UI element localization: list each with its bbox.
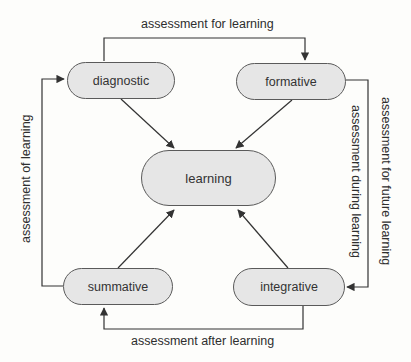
- node-integrative-label: integrative: [260, 280, 318, 294]
- edge-assessment-of-learning: [42, 79, 64, 286]
- label-assessment-for-learning: assessment for learning: [141, 18, 274, 31]
- edge-diagnostic-to-learning: [121, 99, 174, 148]
- assessment-cycle-diagram: diagnostic formative learning summative …: [0, 0, 411, 362]
- label-assessment-during-learning: assessment during learning: [350, 105, 363, 258]
- node-learning: learning: [141, 150, 276, 206]
- edge-assessment-for-learning: [104, 38, 305, 61]
- node-formative: formative: [236, 63, 346, 100]
- node-integrative: integrative: [233, 268, 345, 306]
- node-summative: summative: [63, 268, 173, 305]
- edge-summative-to-learning: [118, 210, 174, 268]
- node-formative-label: formative: [265, 75, 316, 89]
- edge-integrative-to-learning: [238, 210, 288, 268]
- node-diagnostic: diagnostic: [67, 62, 175, 99]
- edge-assessment-after-learning: [104, 306, 303, 329]
- node-diagnostic-label: diagnostic: [93, 74, 149, 88]
- node-learning-label: learning: [185, 171, 231, 186]
- node-summative-label: summative: [88, 280, 148, 294]
- edge-formative-to-learning: [236, 100, 292, 148]
- label-assessment-for-future-learning: assessment for future learning: [380, 97, 393, 265]
- label-assessment-of-learning: assessment of learning: [20, 114, 33, 243]
- label-assessment-after-learning: assessment after learning: [131, 335, 274, 348]
